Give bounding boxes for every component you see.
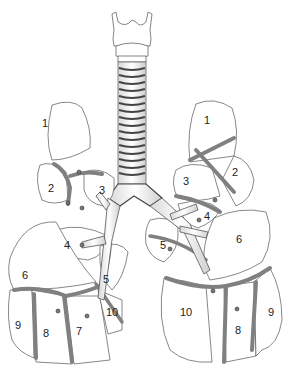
left-segment-label: 3 xyxy=(183,176,189,187)
left-segment-10 xyxy=(161,278,212,362)
larynx xyxy=(112,12,152,62)
left-segment-2 xyxy=(222,156,254,206)
right-segment-label: 8 xyxy=(43,328,49,339)
left-segment-label: 8 xyxy=(235,325,241,336)
trachea xyxy=(108,62,162,206)
right-segment-label: 10 xyxy=(106,307,118,318)
left-segment-label: 6 xyxy=(236,234,242,245)
right-segment-label: 3 xyxy=(99,185,105,196)
left-segment-label: 5 xyxy=(160,240,166,251)
right-segment-label: 5 xyxy=(103,274,109,285)
right-segment-label: 4 xyxy=(64,240,70,251)
right-segment-label: 1 xyxy=(42,118,48,129)
right-segment-label: 2 xyxy=(48,183,54,194)
left-segment-label: 2 xyxy=(232,167,238,178)
right-segment-label: 9 xyxy=(15,320,21,331)
left-lung xyxy=(146,101,283,362)
left-segment-label: 1 xyxy=(204,115,210,126)
left-segment-label: 4 xyxy=(204,211,210,222)
lung-segments-diagram: 1 2 3 4 5 6 7 8 9 10 1 2 3 4 5 6 8 9 10 xyxy=(0,0,290,370)
left-segment-label: 9 xyxy=(268,307,274,318)
diagram-artwork xyxy=(0,0,290,370)
right-segment-1 xyxy=(48,102,90,160)
right-segment-label: 7 xyxy=(76,326,82,337)
right-segment-label: 6 xyxy=(22,270,28,281)
left-segment-label: 10 xyxy=(180,307,192,318)
right-segment-9 xyxy=(8,290,34,358)
left-segment-6 xyxy=(204,210,270,280)
